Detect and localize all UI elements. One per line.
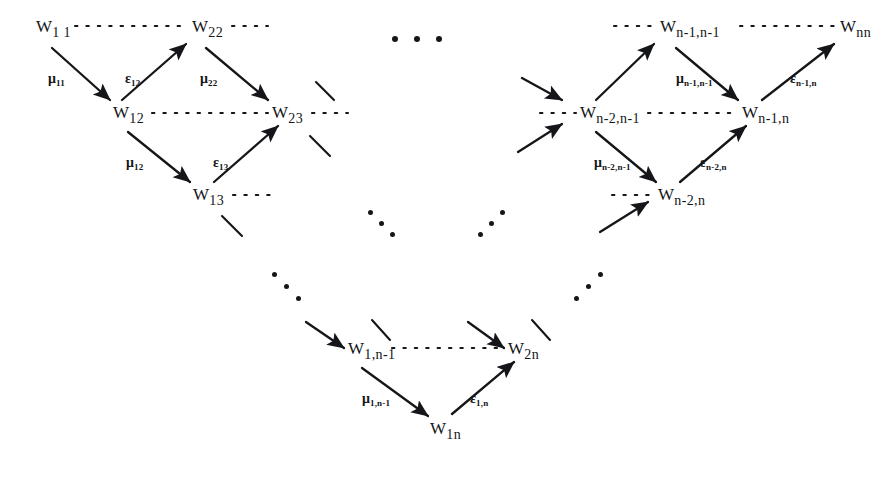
edge-label-glyph: μ [676, 71, 684, 86]
edge-arrow [600, 202, 648, 232]
node-subscript: 1,n-1 [364, 347, 395, 362]
node-w12: W12 [113, 104, 144, 121]
node-base: W [113, 103, 129, 122]
node-subscript: 23 [288, 111, 303, 126]
edge-label-glyph: μ [126, 155, 134, 170]
node-w11: W1 1 [36, 18, 71, 35]
edge-label-glyph: μ [200, 71, 208, 86]
edge-label-subscript: n-2,n [706, 162, 727, 172]
edge-arrow [214, 126, 278, 182]
edge-label-mun1n1: μn-1,n-1 [676, 72, 713, 86]
edge-label-mun2n1: μn-2,n-1 [594, 156, 631, 170]
dotted-links-group [75, 26, 836, 348]
node-base: W [580, 103, 596, 122]
node-subscript: 2n [524, 347, 539, 362]
node-wnn: Wnn [840, 18, 871, 35]
node-wn1n1: Wn-1,n-1 [660, 18, 720, 35]
edge-arrow [518, 124, 562, 152]
node-base: W [658, 185, 674, 204]
node-base: W [742, 103, 758, 122]
edge-arrow [680, 126, 746, 182]
ellipsis-dot [436, 36, 442, 42]
node-wn2n1: Wn-2,n-1 [580, 104, 640, 121]
ellipsis-dot [500, 210, 505, 215]
edge-label-subscript: 12 [131, 78, 140, 88]
edge-stub [372, 320, 390, 340]
edge-label-mu12: μ12 [126, 156, 143, 170]
edge-label-glyph: μ [594, 155, 602, 170]
edge-label-subscript: n-2,n-1 [602, 162, 631, 172]
node-wn2n: Wn-2,n [658, 186, 705, 203]
node-base: W [430, 419, 446, 438]
ellipsis-dot [598, 272, 603, 277]
node-subscript: 12 [129, 111, 144, 126]
node-base: W [192, 17, 208, 36]
node-w1n: W1n [430, 420, 461, 437]
edge-arrow [596, 44, 654, 100]
node-wn1n: Wn-1,n [742, 104, 789, 121]
edge-arrow [522, 78, 562, 100]
edge-label-subscript: 22 [208, 78, 217, 88]
edge-label-subscript: 1,n [476, 398, 488, 408]
edge-stub [532, 320, 550, 340]
node-w13: W13 [193, 186, 224, 203]
node-w23: W23 [272, 104, 303, 121]
edge-label-subscript: n-1,n [796, 78, 817, 88]
node-subscript: n-2,n-1 [596, 111, 640, 126]
ellipsis-dot [390, 232, 395, 237]
node-w1n1: W1,n-1 [348, 340, 395, 357]
diagram-canvas: W1 1W22Wn-1,n-1WnnW12W23Wn-2,n-1Wn-1,nW1… [0, 0, 891, 481]
ellipsis-dot [414, 36, 420, 42]
node-base: W [348, 339, 364, 358]
edge-label-subscript: 1,n-1 [370, 398, 390, 408]
ellipsis-dot [379, 221, 384, 226]
ellipsis-dot [586, 284, 591, 289]
ellipsis-dot [574, 296, 579, 301]
ellipsis-dot [392, 36, 398, 42]
ellipsis-dot [296, 296, 301, 301]
edge-label-glyph: μ [48, 71, 56, 86]
node-subscript: 13 [209, 193, 224, 208]
ellipsis-dot [284, 284, 289, 289]
edge-label-eps1n: ε1,n [470, 392, 488, 406]
edge-label-epsn2n: εn-2,n [700, 156, 727, 170]
edge-label-subscript: 13 [219, 162, 228, 172]
edge-label-subscript: 11 [56, 78, 65, 88]
node-subscript: nn [856, 25, 871, 40]
node-subscript: n-1,n [758, 111, 789, 126]
edge-arrow [306, 322, 344, 348]
node-subscript: 1 1 [52, 25, 71, 40]
node-base: W [272, 103, 288, 122]
edge-stub [316, 82, 334, 100]
node-subscript: n-2,n [674, 193, 705, 208]
edge-label-eps12: ε12 [125, 72, 140, 86]
node-base: W [840, 17, 856, 36]
edge-arrow [468, 322, 504, 348]
ellipsis-dot [489, 221, 494, 226]
edge-stub [222, 216, 242, 236]
ellipsis-dot [272, 272, 277, 277]
node-base: W [36, 17, 52, 36]
ellipsis-dot [368, 210, 373, 215]
node-base: W [508, 339, 524, 358]
node-subscript: 22 [208, 25, 223, 40]
node-base: W [193, 185, 209, 204]
node-w2n: W2n [508, 340, 539, 357]
arrows-group [52, 44, 834, 416]
node-base: W [660, 17, 676, 36]
edge-label-mu11: μ11 [48, 72, 65, 86]
edge-label-subscript: n-1,n-1 [684, 78, 713, 88]
edge-label-mu1n1: μ1,n-1 [362, 392, 390, 406]
edge-label-mu22: μ22 [200, 72, 217, 86]
edge-label-epsn1n: εn-1,n [790, 72, 817, 86]
edge-label-eps13: ε13 [213, 156, 228, 170]
ellipsis-dot [478, 232, 483, 237]
edge-stub [310, 136, 330, 156]
node-w22: W22 [192, 18, 223, 35]
node-subscript: 1n [446, 427, 461, 442]
edge-label-subscript: 12 [134, 162, 143, 172]
node-subscript: n-1,n-1 [676, 25, 720, 40]
edge-label-glyph: μ [362, 391, 370, 406]
